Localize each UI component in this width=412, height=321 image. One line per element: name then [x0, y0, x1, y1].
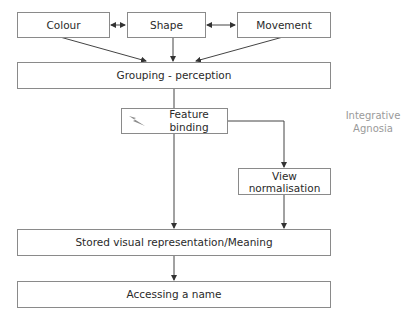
node-feature-binding: Feature binding	[121, 108, 228, 134]
node-colour: Colour	[17, 12, 110, 38]
node-shape: Shape	[127, 12, 206, 38]
annotation-line2: Agnosia	[340, 122, 406, 135]
annotation-integrative-agnosia: Integrative Agnosia	[340, 109, 406, 135]
connector-lines	[0, 0, 412, 321]
node-shape-label: Shape	[150, 19, 183, 32]
node-view-normalisation: View normalisation	[238, 168, 331, 195]
edge-movement-grouping	[196, 37, 283, 61]
node-feature-binding-label: Feature binding	[151, 108, 227, 134]
node-accessing-a-name: Accessing a name	[17, 281, 331, 308]
node-movement: Movement	[237, 12, 331, 38]
lightning-bolt-icon	[128, 115, 146, 127]
edge-colour-grouping	[60, 37, 146, 61]
node-stored-label: Stored visual representation/Meaning	[75, 236, 272, 249]
edge-feature-binding-view-normalisation	[227, 121, 284, 167]
node-view-normalisation-line1: View	[272, 170, 297, 182]
node-stored-visual-representation: Stored visual representation/Meaning	[17, 229, 331, 256]
node-view-normalisation-line2: normalisation	[249, 182, 321, 194]
node-accessing-label: Accessing a name	[126, 288, 221, 301]
node-movement-label: Movement	[256, 19, 312, 32]
node-grouping-perception: Grouping - perception	[17, 62, 331, 89]
node-colour-label: Colour	[46, 19, 80, 32]
annotation-line1: Integrative	[340, 109, 406, 122]
node-grouping-label: Grouping - perception	[117, 69, 232, 82]
